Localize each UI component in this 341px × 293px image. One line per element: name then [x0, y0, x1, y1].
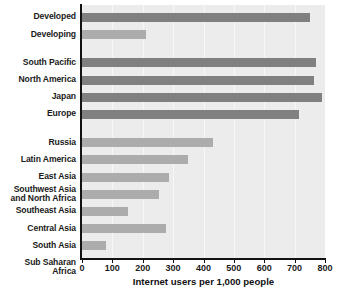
category-label: Developing [31, 30, 76, 39]
gridline [112, 5, 113, 258]
bar [82, 93, 322, 102]
tick-label: 800 [317, 263, 332, 273]
gridline [143, 5, 144, 258]
category-axis-labels: DevelopedDevelopingSouth PacificNorth Am… [0, 5, 79, 258]
horizontal-bar-chart: DevelopedDevelopingSouth PacificNorth Am… [0, 0, 341, 293]
category-label: Latin America [21, 155, 76, 164]
category-label: South Pacific [23, 58, 76, 67]
bar [82, 207, 128, 216]
tick-label: 100 [105, 263, 120, 273]
gridline [264, 5, 265, 258]
tick-label: 300 [166, 263, 181, 273]
tick-label: 0 [79, 263, 84, 273]
bar [82, 138, 213, 147]
bar [82, 110, 299, 119]
bar [82, 76, 314, 85]
gridline [204, 5, 205, 258]
bar [82, 190, 159, 199]
category-label: Sub Saharan Africa [0, 258, 76, 276]
y-axis-line [80, 4, 82, 259]
tick-label: 500 [226, 263, 241, 273]
category-label: Developed [33, 12, 76, 21]
category-label: Central Asia [27, 224, 76, 233]
category-label: North America [18, 75, 76, 84]
plot-area [82, 5, 325, 258]
bar [82, 155, 188, 164]
tick-label: 200 [135, 263, 150, 273]
bar [82, 224, 166, 233]
bar [82, 13, 310, 22]
category-label: Japan [52, 92, 76, 101]
category-label: Southwest Asia and North Africa [11, 185, 76, 203]
category-label: Russia [48, 138, 76, 147]
tick-label: 600 [257, 263, 272, 273]
category-label: South Asia [32, 241, 76, 250]
category-label: Southeast Asia [16, 206, 76, 215]
tick-label: 400 [196, 263, 211, 273]
tick-label: 700 [287, 263, 302, 273]
bar [82, 30, 146, 39]
bar [82, 241, 106, 250]
category-label: Europe [47, 109, 76, 118]
x-axis-title: Internet users per 1,000 people [82, 276, 325, 287]
category-label: East Asia [39, 172, 76, 181]
bar [82, 173, 169, 182]
gridline [234, 5, 235, 258]
gridline [295, 5, 296, 258]
bar [82, 58, 316, 67]
gridline [173, 5, 174, 258]
